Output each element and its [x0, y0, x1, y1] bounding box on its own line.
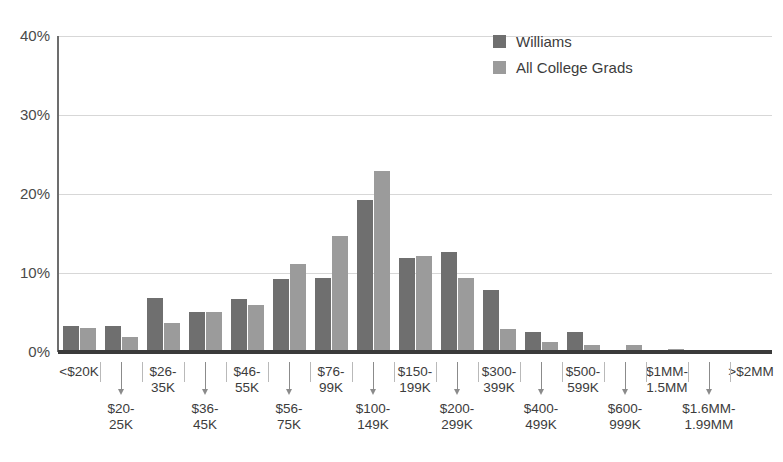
legend-label-all-college-grads: All College Grads — [516, 59, 633, 76]
legend-label-williams: Williams — [516, 33, 572, 50]
bar-group — [58, 36, 100, 352]
bar-group — [310, 36, 352, 352]
bar — [332, 236, 348, 352]
x-label-separator — [310, 362, 311, 382]
x-label-separator — [268, 362, 269, 382]
bar-group — [100, 36, 142, 352]
x-label-separator — [394, 362, 395, 382]
x-label-separator — [562, 362, 563, 382]
bar — [357, 200, 373, 352]
chart-legend: Williams All College Grads — [493, 28, 633, 80]
x-axis-labels: <$20K$20- 25K$26- 35K$36- 45K$46- 55K$56… — [58, 354, 772, 462]
x-label-separator — [478, 362, 479, 382]
x-axis-tick-label: $1.6MM- 1.99MM — [665, 401, 753, 433]
bar-group — [226, 36, 268, 352]
bar-group — [478, 36, 520, 352]
bar — [147, 298, 163, 352]
y-axis-tick-label: 30% — [0, 106, 50, 123]
bar-group — [688, 36, 730, 352]
x-axis-tick-label: $500- 599K — [539, 364, 627, 396]
y-axis-tick-label: 40% — [0, 27, 50, 44]
x-label-separator — [730, 362, 731, 382]
x-axis-tick-label: $56- 75K — [245, 401, 333, 433]
bar — [206, 312, 222, 352]
bar-group — [730, 36, 772, 352]
y-axis-tick-label: 0% — [0, 343, 50, 360]
bar-group — [394, 36, 436, 352]
x-axis-tick-label: $46- 55K — [203, 364, 291, 396]
bar-group — [352, 36, 394, 352]
y-axis-tick-label: 10% — [0, 264, 50, 281]
bar — [248, 305, 264, 352]
bar-group — [646, 36, 688, 352]
bar — [399, 258, 415, 352]
x-axis-tick-label: $300- 399K — [455, 364, 543, 396]
legend-item-williams: Williams — [493, 28, 633, 54]
x-axis-tick-label: <$20K — [35, 364, 123, 380]
x-label-separator — [436, 362, 437, 382]
income-distribution-bar-chart: 40%30%20%10%0% Williams All College Grad… — [0, 0, 783, 462]
bar — [80, 328, 96, 352]
x-label-separator — [688, 362, 689, 382]
bar — [441, 252, 457, 352]
plot-area — [58, 36, 772, 352]
bar-group — [184, 36, 226, 352]
x-axis-tick-label: $150- 199K — [371, 364, 459, 396]
bar-group — [604, 36, 646, 352]
x-label-separator — [100, 362, 101, 382]
bar — [231, 299, 247, 352]
bar-group — [562, 36, 604, 352]
x-axis-tick-label: $100- 149K — [329, 401, 417, 433]
bar-group — [268, 36, 310, 352]
x-label-separator — [604, 362, 605, 382]
bar — [164, 323, 180, 352]
x-label-separator — [226, 362, 227, 382]
legend-item-all-college-grads: All College Grads — [493, 54, 633, 80]
bar — [458, 278, 474, 352]
x-axis-tick-label: $200- 299K — [413, 401, 501, 433]
x-axis-tick-label: >$2MM — [707, 364, 783, 380]
bar — [290, 264, 306, 352]
x-axis-tick-label: $36- 45K — [161, 401, 249, 433]
legend-swatch-icon-all-college-grads — [493, 61, 506, 74]
bar-group — [142, 36, 184, 352]
x-label-separator — [646, 362, 647, 382]
bar-group — [436, 36, 478, 352]
y-axis-tick-label: 20% — [0, 185, 50, 202]
bar — [63, 326, 79, 352]
bar — [105, 326, 121, 352]
x-label-separator — [142, 362, 143, 382]
x-label-separator — [520, 362, 521, 382]
bar-group — [520, 36, 562, 352]
bar — [189, 312, 205, 352]
bar — [315, 278, 331, 352]
bar — [273, 279, 289, 352]
bar — [416, 256, 432, 352]
y-axis-line — [57, 36, 59, 352]
x-axis-tick-label: $76- 99K — [287, 364, 375, 396]
x-axis-tick-label: $1MM- 1.5MM — [623, 364, 711, 396]
bar — [374, 171, 390, 352]
x-axis-tick-label: $600- 999K — [581, 401, 669, 433]
x-axis-tick-label: $20- 25K — [77, 401, 165, 433]
legend-swatch-icon-williams — [493, 35, 506, 48]
x-axis-tick-label: $26- 35K — [119, 364, 207, 396]
x-label-separator — [352, 362, 353, 382]
bar — [483, 290, 499, 352]
x-axis-tick-label: $400- 499K — [497, 401, 585, 433]
bar — [500, 329, 516, 352]
x-label-separator — [184, 362, 185, 382]
